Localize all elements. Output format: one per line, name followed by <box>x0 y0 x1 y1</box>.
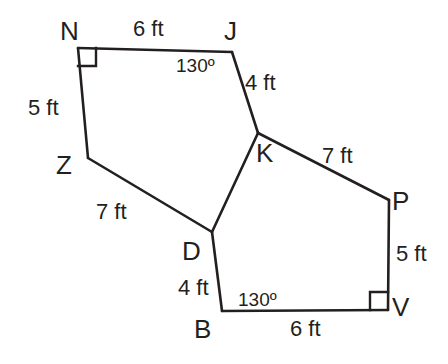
length-label-edge-V-B: 6 ft <box>290 318 321 340</box>
vertex-label-N: N <box>60 18 79 44</box>
figure-canvas <box>0 0 448 364</box>
edge-V-B <box>222 310 388 311</box>
edge-N-J <box>78 48 232 52</box>
vertex-label-K: K <box>256 140 273 166</box>
length-label-edge-K-P: 7 ft <box>322 145 353 167</box>
length-label-edge-D-Z: 7 ft <box>96 201 127 223</box>
right-angle-marker-N <box>78 48 96 66</box>
length-label-edge-P-V: 5 ft <box>396 243 427 265</box>
vertex-label-Z: Z <box>56 152 72 178</box>
length-label-edge-Z-N: 5 ft <box>28 97 59 119</box>
length-label-edge-J-K: 4 ft <box>245 72 276 94</box>
length-label-edge-B-D: 4 ft <box>178 277 209 299</box>
length-label-edge-N-J: 6 ft <box>133 18 164 40</box>
angle-at-J-label: 130º <box>176 56 215 75</box>
angle-at-B-label: 130º <box>238 290 277 309</box>
edge-K-D <box>212 133 258 232</box>
edge-P-V <box>388 200 389 310</box>
vertex-label-B: B <box>194 316 211 342</box>
right-angle-marker-V <box>370 292 388 310</box>
geometry-figure: NJKDZPVB6 ft4 ft7 ft5 ft7 ft5 ft6 ft4 ft… <box>0 0 448 364</box>
edge-B-D <box>212 232 222 311</box>
vertex-label-D: D <box>182 238 201 264</box>
vertex-label-J: J <box>224 18 237 44</box>
vertex-label-P: P <box>392 188 409 214</box>
vertex-label-V: V <box>392 294 409 320</box>
edges-group <box>78 48 389 311</box>
edge-Z-N <box>78 48 88 158</box>
